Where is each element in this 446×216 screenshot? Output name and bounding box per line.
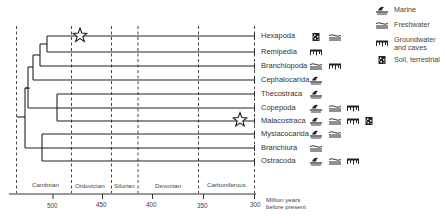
tick-label-400: 400	[146, 201, 157, 208]
legend-label-groundwater-line2: and caves	[394, 44, 436, 52]
habitat-icons	[310, 33, 373, 165]
taxon-label-thecostraca: Thecostraca	[261, 89, 302, 98]
marine-icon	[310, 91, 322, 98]
marine-icon	[310, 105, 322, 112]
tick-label-300: 300	[250, 201, 261, 208]
star-icon	[233, 113, 247, 127]
tree-branches	[17, 36, 255, 161]
marine-icon	[310, 158, 322, 165]
axis-caption-line1: Million years	[266, 196, 306, 203]
groundwater-caves-icon	[329, 64, 341, 70]
taxon-label-remipedia: Remipedia	[261, 47, 297, 56]
period-label-silurian: Silurian	[114, 182, 135, 189]
time-axis	[9, 194, 256, 199]
taxon-label-copepoda: Copepoda	[261, 103, 296, 112]
freshwater-icon	[376, 23, 388, 28]
legend-label-soil: Soil, terrestrial	[394, 56, 440, 64]
period-label-devonian: Devonian	[155, 182, 181, 189]
legend-label-groundwater: Groundwater and caves	[394, 36, 436, 52]
freshwater-icon	[329, 106, 341, 111]
axis-caption: Million years before present	[266, 196, 306, 210]
taxon-label-cephalocarida: Cephalocarida	[261, 75, 309, 84]
freshwater-icon	[310, 64, 322, 69]
groundwater-caves-icon	[347, 106, 359, 112]
taxon-label-mysiacocarida: Mysiacocarida	[261, 129, 309, 138]
legend-icons	[376, 7, 388, 64]
groundwater-caves-icon	[347, 159, 359, 165]
taxon-label-hexapoda: Hexapoda	[261, 31, 295, 40]
marine-icon	[310, 131, 322, 138]
phylogeny-diagram: Hexapoda Remipedia Branchiopoda Cephaloc…	[0, 0, 446, 216]
taxon-label-branchiopoda: Branchiopoda	[261, 61, 307, 70]
period-label-cambrian: Cambrian	[32, 181, 59, 188]
marine-icon	[376, 7, 388, 14]
groundwater-caves-icon	[310, 50, 322, 56]
freshwater-icon	[329, 159, 341, 164]
period-label-carboniferous: Carboniferous	[207, 181, 246, 188]
soil-terrestrial-icon	[379, 56, 386, 64]
groundwater-caves-icon	[347, 119, 359, 125]
freshwater-icon	[310, 146, 322, 151]
tick-label-450: 450	[96, 201, 107, 208]
groundwater-caves-icon	[376, 41, 388, 47]
tick-label-350: 350	[197, 202, 208, 209]
freshwater-icon	[329, 35, 341, 40]
marine-icon	[310, 77, 322, 84]
freshwater-icon	[329, 132, 341, 137]
legend-label-marine: Marine	[394, 6, 416, 14]
freshwater-icon	[329, 119, 341, 124]
period-label-ordovician: Ordovician	[75, 182, 105, 189]
tick-label-500: 500	[47, 202, 58, 209]
star-icon	[73, 28, 87, 42]
taxon-label-branchiura: Branchiura	[261, 143, 297, 152]
period-boundaries	[17, 26, 255, 193]
soil-terrestrial-icon	[313, 33, 320, 41]
taxon-label-malacostraca: Malacostraca	[261, 116, 306, 125]
soil-terrestrial-icon	[366, 117, 373, 125]
axis-caption-line2: before present	[266, 203, 306, 210]
marine-icon	[310, 118, 322, 125]
legend-label-freshwater: Freshwater	[394, 21, 430, 29]
taxon-label-ostracoda: Ostracoda	[261, 156, 296, 165]
